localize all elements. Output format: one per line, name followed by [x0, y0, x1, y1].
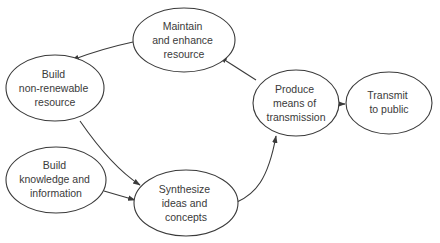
node-transmit-public: Transmit to public — [346, 72, 432, 134]
node-build-nonrenewable: Build non-renewable resource — [6, 55, 104, 121]
process-diagram: Maintain and enhance resource Build non-… — [0, 0, 440, 243]
node-label: Synthesize ideas and concepts — [159, 183, 213, 223]
edge-produce-to-maintain — [220, 57, 256, 80]
edge-synthesize-to-produce — [237, 136, 276, 202]
node-synthesize-ideas: Synthesize ideas and concepts — [134, 170, 238, 236]
edge-maintain-to-nonrenewable — [72, 42, 133, 60]
edge-knowledge-to-synthesize — [104, 191, 135, 200]
node-label: Produce means of transmission — [267, 83, 326, 123]
node-produce-transmission: Produce means of transmission — [253, 70, 339, 136]
node-build-knowledge: Build knowledge and information — [6, 147, 106, 213]
node-maintain-resource: Maintain and enhance resource — [133, 8, 235, 72]
